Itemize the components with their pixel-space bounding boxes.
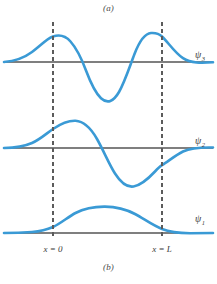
wave-group-psi-1: ψ1 [4,207,213,234]
wave-label-psi-2: ψ2 [195,135,206,148]
wave-label-psi-3: ψ3 [195,49,206,62]
x-axis-label-left: x = 0 [42,244,63,254]
wave-subscript-psi-3: 3 [201,55,206,62]
x-axis-label-right: x = L [151,244,172,254]
wave-curve-psi-1 [4,207,213,234]
figure-caption-bottom: (b) [0,262,217,272]
wave-subscript-psi-1: 1 [202,219,205,226]
wave-group-psi-2: ψ2 [4,121,213,187]
wave-curve-psi-3 [4,33,213,101]
wave-curve-psi-2 [4,121,213,187]
wave-label-psi-1: ψ1 [195,213,205,226]
figure-root: (a) ψ3 ψ2 ψ1 x = 0 x = L (b) [0,0,217,284]
wave-group-psi-3: ψ3 [4,33,213,101]
wavefunction-plot: ψ3 ψ2 ψ1 x = 0 x = L [0,0,217,284]
